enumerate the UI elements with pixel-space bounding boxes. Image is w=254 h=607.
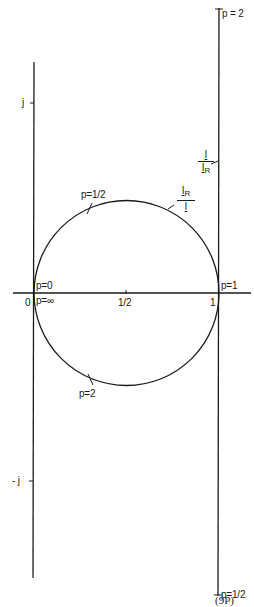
frac-den: I — [177, 202, 195, 212]
label-p0: p=0 — [36, 281, 52, 291]
label-i-over-ir: I IR — [198, 150, 214, 176]
imaginary-axis — [33, 62, 34, 578]
label-half: 1/2 — [118, 298, 131, 308]
frac-num-sub: R — [185, 189, 191, 198]
label-zero: 0 — [25, 298, 30, 308]
leader-ir-over-i — [168, 205, 174, 209]
figure-number: (9P) — [215, 594, 234, 606]
label-ir-over-i: IR I — [177, 186, 195, 212]
frac-num: I — [198, 150, 214, 160]
frac-den-sub: R — [205, 166, 211, 175]
fraction-bar — [198, 161, 214, 162]
label-p2-circle: p=2 — [79, 389, 95, 399]
label-p2-line: p = 2 — [222, 9, 244, 19]
label-j: j — [22, 98, 24, 108]
label-p1: p=1 — [221, 281, 237, 291]
label-p-half-circle: p=1/2 — [81, 190, 105, 200]
label-one: 1 — [210, 298, 215, 308]
label-pinf: p=∞ — [36, 296, 54, 306]
label-minus-j: - j — [12, 476, 20, 486]
